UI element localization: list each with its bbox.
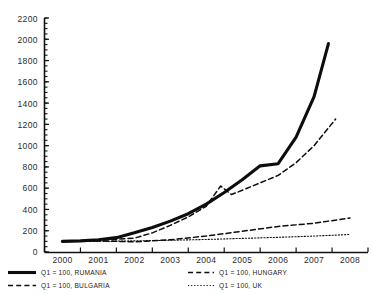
legend-label-rumania: Q1 = 100, RUMANIA bbox=[41, 269, 107, 277]
y-tick-1000: 1000 bbox=[17, 141, 38, 151]
x-axis bbox=[45, 248, 369, 253]
chart-series-group bbox=[62, 44, 350, 242]
x-axis-ticks bbox=[45, 248, 369, 253]
legend-label-bulgaria: Q1 = 100, BULGARIA bbox=[41, 282, 110, 290]
legend: Q1 = 100, RUMANIA Q1 = 100, BULGARIA Q1 … bbox=[8, 269, 287, 290]
line-chart: 2200 2000 1800 1600 1400 1200 1000 800 6… bbox=[0, 0, 374, 294]
legend-item-uk: Q1 = 100, UK bbox=[188, 282, 262, 290]
y-tick-200: 200 bbox=[23, 226, 38, 236]
legend-label-hungary: Q1 = 100, HUNGARY bbox=[219, 269, 287, 277]
x-tick-2004: 2004 bbox=[196, 255, 216, 265]
y-tick-400: 400 bbox=[23, 205, 38, 215]
y-tick-1400: 1400 bbox=[17, 99, 38, 109]
y-axis-tick-labels: 2200 2000 1800 1600 1400 1200 1000 800 6… bbox=[17, 14, 38, 257]
x-tick-2007: 2007 bbox=[304, 255, 324, 265]
chart-container: 2200 2000 1800 1600 1400 1200 1000 800 6… bbox=[0, 0, 374, 294]
x-tick-2000: 2000 bbox=[52, 255, 72, 265]
y-tick-0: 0 bbox=[33, 247, 38, 257]
y-tick-2000: 2000 bbox=[17, 35, 38, 45]
legend-label-uk: Q1 = 100, UK bbox=[219, 282, 262, 290]
y-tick-1800: 1800 bbox=[17, 56, 38, 66]
x-tick-2005: 2005 bbox=[232, 255, 252, 265]
legend-item-bulgaria: Q1 = 100, BULGARIA bbox=[8, 282, 110, 290]
x-tick-2001: 2001 bbox=[88, 255, 108, 265]
x-tick-2008: 2008 bbox=[340, 255, 360, 265]
y-tick-600: 600 bbox=[23, 183, 38, 193]
y-tick-2200: 2200 bbox=[17, 14, 38, 24]
series-line-rumania bbox=[62, 44, 328, 242]
y-tick-1600: 1600 bbox=[17, 77, 38, 87]
y-tick-1200: 1200 bbox=[17, 120, 38, 130]
x-axis-tick-labels: 200020012002200320042005200620072008 bbox=[52, 255, 360, 265]
y-tick-800: 800 bbox=[23, 162, 38, 172]
x-tick-2002: 2002 bbox=[124, 255, 144, 265]
y-axis bbox=[45, 18, 50, 252]
x-tick-2003: 2003 bbox=[160, 255, 180, 265]
x-tick-2006: 2006 bbox=[268, 255, 288, 265]
legend-item-hungary: Q1 = 100, HUNGARY bbox=[188, 269, 287, 277]
legend-item-rumania: Q1 = 100, RUMANIA bbox=[8, 269, 107, 277]
